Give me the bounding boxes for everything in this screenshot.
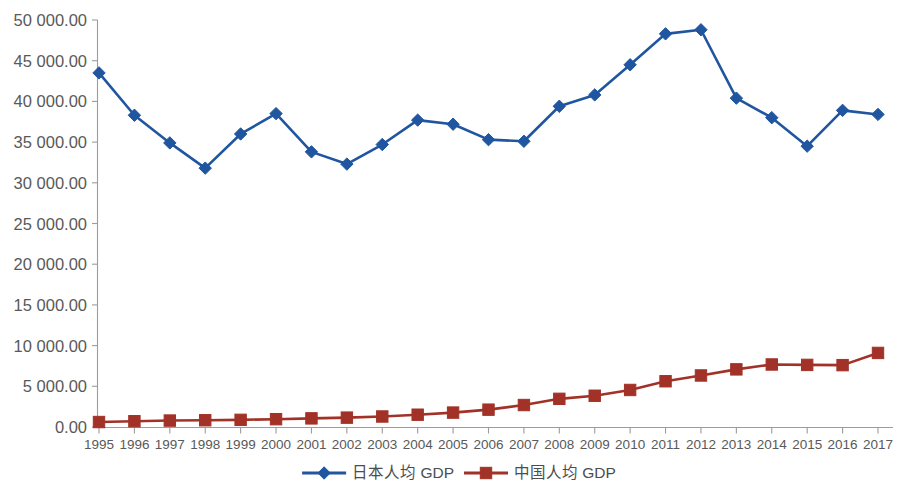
legend-square-marker-icon <box>480 467 491 478</box>
x-tick-label: 2005 <box>438 437 468 452</box>
x-tick-label: 1995 <box>84 437 114 452</box>
data-point-marker <box>164 415 175 426</box>
x-tick-label: 2001 <box>296 437 326 452</box>
x-tick-label: 2009 <box>580 437 610 452</box>
y-tick-label: 25 000.00 <box>14 215 87 233</box>
x-tick-label: 2003 <box>367 437 397 452</box>
y-tick-label: 20 000.00 <box>14 255 87 273</box>
x-tick-label: 2011 <box>651 437 680 452</box>
x-tick-label: 1996 <box>119 437 149 452</box>
x-tick-label: 2008 <box>544 437 574 452</box>
data-point-marker <box>341 412 352 423</box>
x-tick-label: 2015 <box>792 437 822 452</box>
y-tick-label: 45 000.00 <box>14 52 87 70</box>
data-point-marker <box>447 407 458 418</box>
x-tick-label: 2004 <box>403 437 434 452</box>
data-point-marker <box>837 359 848 370</box>
data-point-marker <box>695 370 706 381</box>
y-tick-label: 0.00 <box>55 418 87 436</box>
x-tick-label: 2013 <box>721 437 751 452</box>
x-tick-label: 2006 <box>473 437 503 452</box>
x-tick-label: 2010 <box>615 437 645 452</box>
data-point-marker <box>412 409 423 420</box>
y-tick-label: 30 000.00 <box>14 174 87 192</box>
data-point-marker <box>93 416 104 427</box>
data-point-marker <box>589 390 600 401</box>
data-point-marker <box>801 359 812 370</box>
x-tick-label: 2002 <box>332 437 362 452</box>
data-point-marker <box>766 359 777 370</box>
y-tick-label: 15 000.00 <box>14 296 87 314</box>
chart-container: 0.005 000.0010 000.0015 000.0020 000.002… <box>0 0 898 490</box>
data-point-marker <box>554 393 565 404</box>
data-point-marker <box>624 384 635 395</box>
data-point-marker <box>377 411 388 422</box>
data-point-marker <box>483 404 494 415</box>
data-point-marker <box>660 376 671 387</box>
data-point-marker <box>872 347 883 358</box>
y-tick-label: 40 000.00 <box>14 92 87 110</box>
legend-label: 中国人均 GDP <box>514 464 616 481</box>
y-tick-label: 5 000.00 <box>23 377 87 395</box>
x-tick-label: 1999 <box>226 437 256 452</box>
x-tick-label: 1997 <box>155 437 185 452</box>
x-tick-label: 1998 <box>190 437 220 452</box>
data-point-marker <box>235 414 246 425</box>
y-tick-label: 50 000.00 <box>14 11 87 29</box>
data-point-marker <box>518 399 529 410</box>
x-axis-tick-labels: 1995199619971998199920002001200220032004… <box>84 437 893 452</box>
x-tick-label: 2014 <box>757 437 788 452</box>
x-tick-label: 2000 <box>261 437 291 452</box>
x-tick-label: 2017 <box>863 437 893 452</box>
x-tick-label: 2007 <box>509 437 539 452</box>
legend-label: 日本人均 GDP <box>352 464 454 481</box>
x-tick-label: 2016 <box>828 437 858 452</box>
data-point-marker <box>306 413 317 424</box>
x-tick-label: 2012 <box>686 437 716 452</box>
data-point-marker <box>129 416 140 427</box>
y-tick-label: 35 000.00 <box>14 133 87 151</box>
data-point-marker <box>731 364 742 375</box>
line-chart: 0.005 000.0010 000.0015 000.0020 000.002… <box>0 0 898 490</box>
data-point-marker <box>200 415 211 426</box>
y-tick-label: 10 000.00 <box>14 337 87 355</box>
data-point-marker <box>270 413 281 424</box>
